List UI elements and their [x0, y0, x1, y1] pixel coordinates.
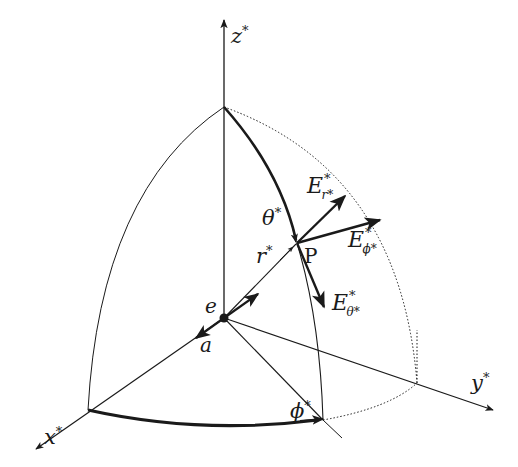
y-axis-label: y*	[470, 370, 490, 395]
phi-label: ϕ*	[290, 398, 311, 423]
a-label: a	[200, 333, 212, 357]
theta-arc	[224, 107, 296, 240]
theta-label: θ*	[262, 205, 282, 230]
x-axis-label: x*	[44, 424, 63, 449]
point-P-label: P	[304, 244, 317, 268]
origin-e-label: e	[205, 294, 217, 318]
E-phi-label: E*ϕ*	[347, 225, 377, 256]
xz-meridian-arc	[88, 107, 224, 410]
yz-meridian-arc	[224, 107, 417, 383]
meridian-lower	[297, 243, 323, 420]
E-theta-label: E*θ*	[331, 288, 360, 319]
E-r-label: E*r*	[306, 171, 333, 202]
equator-dotted-arc	[323, 383, 417, 420]
y-axis	[224, 318, 493, 410]
spherical-coordinates-diagram: z* x* y* θ* r* P e a ϕ* E*r* E*ϕ* E*θ*	[0, 0, 518, 467]
phi-arc	[88, 410, 318, 426]
z-axis-label: z*	[230, 23, 249, 48]
origin-point	[220, 314, 229, 323]
r-label: r*	[256, 243, 273, 268]
e-vector	[224, 294, 258, 318]
